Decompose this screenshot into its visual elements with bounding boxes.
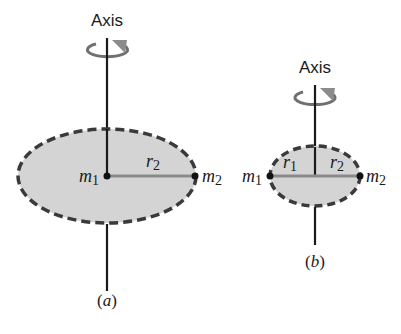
panel-b: Axis m1 m2 r1 r2 (b) [242, 58, 386, 271]
mass-dot-m1-a [104, 173, 111, 180]
rotating-masses-diagram: Axis m1 m2 r2 (a) [0, 0, 401, 334]
caption-b: (b) [305, 252, 325, 271]
caption-a: (a) [97, 291, 117, 310]
mass-dot-m2-b [357, 173, 364, 180]
label-m2-b: m2 [366, 166, 386, 188]
panel-a: Axis m1 m2 r2 (a) [18, 11, 222, 310]
mass-dot-m2-a [192, 173, 199, 180]
label-m1-b: m1 [242, 166, 262, 188]
axis-label-b: Axis [299, 58, 331, 77]
label-m2-a: m2 [202, 166, 222, 188]
mass-dot-m1-b [267, 173, 274, 180]
axis-label-a: Axis [91, 11, 123, 30]
